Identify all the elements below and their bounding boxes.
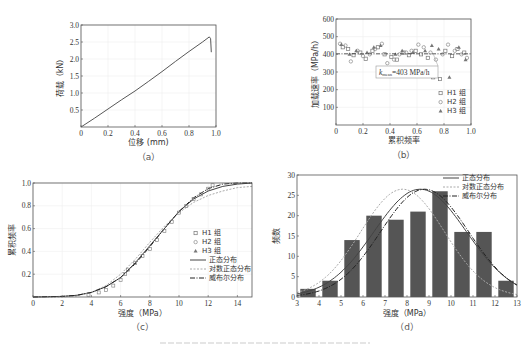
- data-marker: [112, 284, 115, 287]
- legend-item: 正态分布: [443, 173, 490, 182]
- x-tick-label: 0: [31, 299, 35, 308]
- y-tick-label: 0.4: [22, 247, 32, 256]
- x-tick-label: 9: [427, 299, 431, 308]
- x-tick-label: 6: [119, 299, 123, 308]
- legend-item: 对数正态分布: [443, 182, 504, 191]
- legend-label: H3 组: [202, 246, 221, 255]
- x-tick-label: 0.6: [412, 127, 422, 136]
- x-tick-label: 0.4: [130, 129, 140, 138]
- data-marker-square: [426, 56, 429, 59]
- y-tick-label: 2.5: [70, 38, 80, 47]
- legend-item: 威布尔分布: [443, 191, 497, 200]
- data-marker-triangle: [447, 75, 451, 79]
- y-tick-label: 10: [288, 252, 296, 261]
- legend-marker-circle: [439, 100, 442, 103]
- legend-marker-triangle: [439, 109, 443, 113]
- y-tick-label: 3.0: [70, 21, 80, 30]
- data-marker: [105, 289, 108, 292]
- legend-item: H2 组: [194, 237, 221, 246]
- x-tick-label: 4: [317, 299, 321, 308]
- y-tick-label: 400: [323, 50, 335, 59]
- legend-item: H1 组: [194, 228, 221, 237]
- x-tick-label: 8: [148, 299, 152, 308]
- y-tick-label: 25: [288, 191, 296, 200]
- data-marker-triangle: [400, 49, 404, 53]
- y-tick-label: 0.5: [70, 106, 80, 115]
- x-tick-label: 14: [234, 299, 242, 308]
- x-tick-label: 6: [361, 299, 365, 308]
- data-marker-triangle: [430, 44, 434, 48]
- y-tick-label: 20: [288, 211, 296, 220]
- y-tick-label: 0.2: [22, 270, 32, 279]
- y-tick-label: 1.5: [70, 72, 80, 81]
- histogram-bar: [432, 191, 447, 297]
- data-marker-circle: [422, 46, 425, 49]
- legend-item: H1 组: [439, 88, 466, 97]
- legend-label: 威布尔分布: [209, 273, 244, 282]
- x-tick-label: 5: [339, 299, 343, 308]
- data-marker-triangle: [437, 47, 441, 51]
- legend-item: H2 组: [439, 97, 466, 106]
- histogram-bar: [498, 281, 513, 297]
- x-axis-label: 强度（MPa）: [383, 308, 431, 318]
- data-marker-triangle: [457, 45, 461, 49]
- x-tick-label: 0.2: [103, 129, 113, 138]
- y-tick-label: 1.0: [70, 89, 80, 98]
- legend-item: 对数正态分布: [190, 264, 251, 273]
- data-marker-triangle: [423, 49, 427, 53]
- panel-c: 024681012140.20.40.60.81.0强度（MPa）累积频率（c）…: [7, 179, 252, 333]
- panel-a: 00.20.40.60.81.00.51.01.52.02.53.0位移 (mm…: [55, 21, 221, 163]
- x-tick-label: 12: [204, 299, 212, 308]
- x-tick-label: 0.8: [439, 127, 449, 136]
- legend-marker-square: [439, 92, 442, 95]
- figure-canvas: 00.20.40.60.81.00.51.01.52.02.53.0位移 (mm…: [0, 0, 526, 345]
- y-tick-label: 0.8: [22, 201, 32, 210]
- histogram-bar: [366, 216, 381, 297]
- x-tick-label: 3: [295, 299, 299, 308]
- data-marker-circle: [349, 60, 352, 63]
- y-tick-label: 500: [323, 32, 335, 41]
- y-tick-label: 100: [323, 103, 335, 112]
- x-tick-label: 0.8: [184, 129, 194, 138]
- y-tick-label: 15: [288, 232, 296, 241]
- x-tick-label: 10: [175, 299, 183, 308]
- data-marker: [97, 291, 100, 294]
- x-tick-label: 11: [469, 299, 476, 308]
- data-marker-square: [438, 77, 441, 80]
- y-axis-label: 累积频率: [7, 224, 17, 256]
- y-tick-label: 30: [288, 171, 296, 180]
- x-tick-label: 1.0: [466, 127, 476, 136]
- legend-label: 威布尔分布: [462, 191, 497, 200]
- x-tick-label: 2: [60, 299, 64, 308]
- legend-item: 正态分布: [190, 255, 237, 264]
- legend-label: H3 组: [447, 106, 466, 115]
- y-tick-label: 600: [323, 15, 335, 24]
- x-tick-label: 1.0: [211, 129, 221, 138]
- data-marker-square: [347, 47, 350, 50]
- x-tick-label: 0.6: [157, 129, 167, 138]
- histogram-bar: [476, 232, 491, 297]
- histogram-bar: [388, 220, 403, 297]
- panel-b: kmean=403 MPa/h00.20.40.60.81.0100200300…: [310, 15, 476, 161]
- legend-item: H3 组: [194, 246, 221, 255]
- legend-label: 对数正态分布: [462, 182, 504, 191]
- x-tick-label: 10: [447, 299, 455, 308]
- legend-label: 正态分布: [462, 173, 490, 182]
- legend-label: H1 组: [202, 228, 221, 237]
- panel-caption: （c）: [131, 322, 154, 332]
- data-marker-triangle: [339, 43, 343, 47]
- legend-label: H1 组: [447, 88, 466, 97]
- panel-caption: （d）: [395, 322, 419, 332]
- panel-d: 345678910111213051015202530强度（MPa）频数（d）正…: [271, 171, 521, 333]
- data-marker: [211, 184, 214, 187]
- legend-label: 正态分布: [209, 255, 237, 264]
- histogram-bar: [410, 212, 425, 297]
- legend-marker-circle: [194, 240, 197, 243]
- panel-caption: （a）: [137, 152, 161, 162]
- x-tick-label: 7: [383, 299, 387, 308]
- y-axis-label: 频数: [271, 228, 281, 244]
- legend-label: H2 组: [202, 237, 221, 246]
- x-axis-label: 位移 (mm): [128, 137, 168, 147]
- x-axis-label: 累积频率: [388, 135, 420, 145]
- y-tick-label: 0.6: [22, 224, 32, 233]
